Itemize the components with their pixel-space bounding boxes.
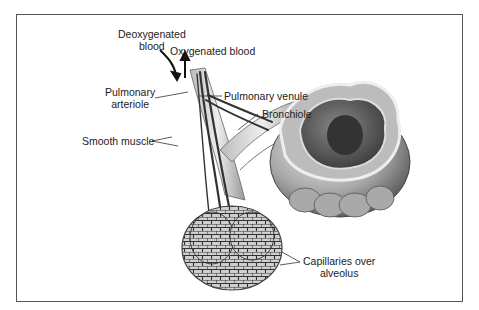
label-capillaries-over-alveolus: Capillaries over alveolus <box>303 255 375 279</box>
alveolus-capillary-net <box>182 206 282 290</box>
label-pulmonary-venule: Pulmonary venule <box>224 90 308 102</box>
label-line: Capillaries over <box>303 255 375 267</box>
label-line: Pulmonary <box>105 86 155 98</box>
label-smooth-muscle: Smooth muscle <box>82 135 154 147</box>
label-line: Deoxygenated <box>118 28 186 40</box>
label-bronchiole: Bronchiole <box>262 108 312 120</box>
label-line: alveolus <box>303 267 375 279</box>
label-pulmonary-arteriole: Pulmonary arteriole <box>105 86 155 110</box>
label-line: arteriole <box>105 98 155 110</box>
label-oxygenated-blood: Oxygenated blood <box>170 45 255 57</box>
